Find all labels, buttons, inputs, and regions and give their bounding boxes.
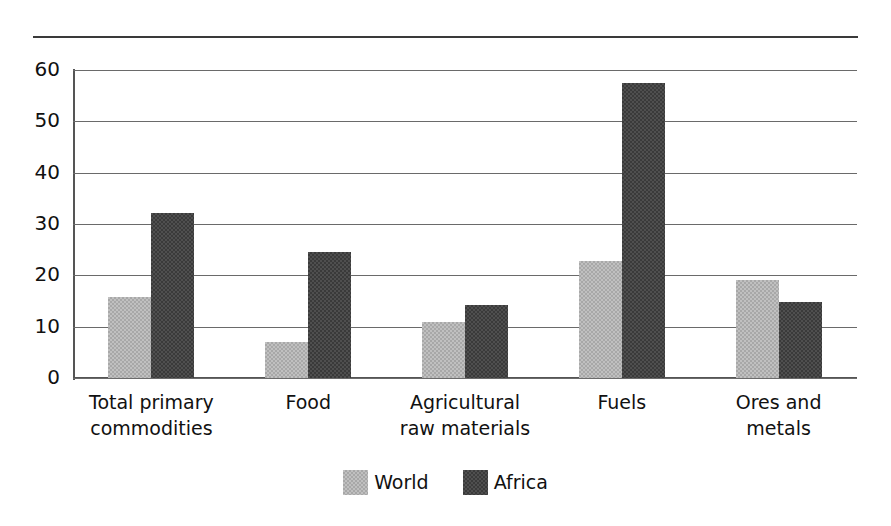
y-axis-tick-label-0: 0	[0, 367, 60, 387]
bar-world-4[interactable]	[736, 280, 779, 378]
gridline-60	[73, 70, 857, 71]
chart-legend: WorldAfrica	[0, 470, 891, 495]
bar-world-1[interactable]	[265, 342, 308, 378]
gridline-0	[73, 378, 857, 379]
category-label-1: Food	[230, 389, 387, 415]
y-axis-tick-label-50: 50	[0, 110, 60, 130]
legend-swatch-world	[343, 470, 368, 495]
bar-africa-3[interactable]	[622, 83, 665, 378]
bar-africa-4[interactable]	[779, 302, 822, 378]
legend-label-africa: Africa	[494, 473, 548, 492]
gridline-40	[73, 173, 857, 174]
bar-world-3[interactable]	[579, 261, 622, 378]
legend-swatch-africa	[463, 470, 488, 495]
chart-page: 0102030405060 Total primary commoditiesF…	[0, 0, 891, 526]
y-axis-tick-label-60: 60	[0, 59, 60, 79]
bar-africa-0[interactable]	[151, 213, 194, 378]
legend-item-world[interactable]: World	[343, 470, 428, 495]
bar-world-2[interactable]	[422, 322, 465, 378]
category-label-3: Fuels	[543, 389, 700, 415]
plot-area	[73, 70, 857, 378]
bar-africa-2[interactable]	[465, 305, 508, 378]
legend-item-africa[interactable]: Africa	[463, 470, 548, 495]
y-axis-tick-label-30: 30	[0, 213, 60, 233]
legend-label-world: World	[374, 473, 428, 492]
y-axis-tick-label-40: 40	[0, 162, 60, 182]
top-divider-rule	[33, 36, 858, 38]
y-axis-tick-label-20: 20	[0, 264, 60, 284]
gridline-50	[73, 121, 857, 122]
category-label-2: Agricultural raw materials	[387, 389, 544, 441]
category-label-4: Ores and metals	[700, 389, 857, 441]
category-label-0: Total primary commodities	[73, 389, 230, 441]
y-axis-tick-labels: 0102030405060	[0, 0, 66, 526]
y-axis-tick-label-10: 10	[0, 316, 60, 336]
bar-world-0[interactable]	[108, 297, 151, 378]
bar-africa-1[interactable]	[308, 252, 351, 378]
